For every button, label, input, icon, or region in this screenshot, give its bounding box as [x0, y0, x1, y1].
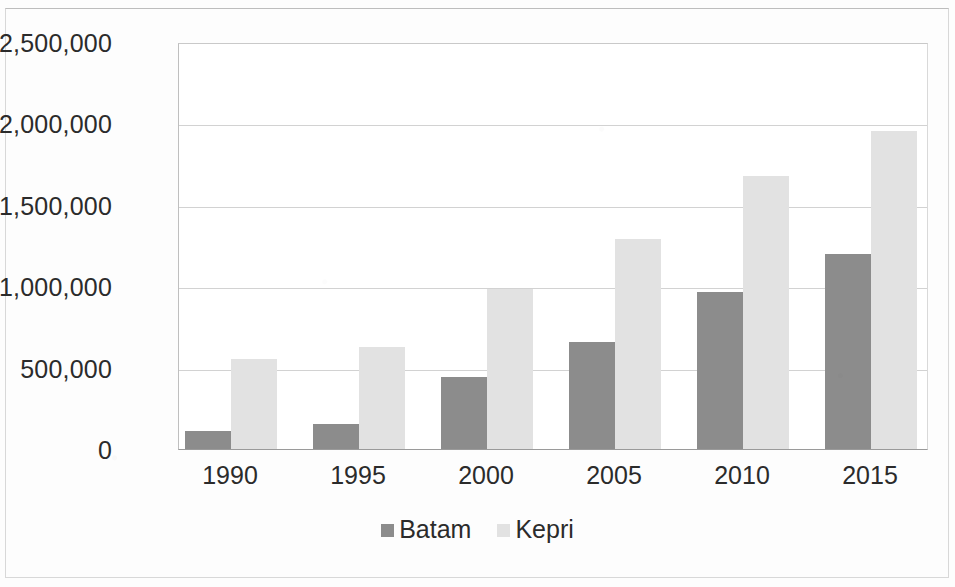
bar-kepri-1995[interactable] — [359, 347, 405, 449]
chart-legend: Batam Kepri — [0, 515, 955, 544]
grouped-bar-chart: 2,500,000 2,000,000 1,500,000 1,000,000 … — [0, 0, 955, 587]
bar-batam-1990[interactable] — [185, 431, 231, 449]
legend-item-label: Batam — [399, 515, 471, 544]
x-axis-tick-label: 1995 — [293, 461, 423, 490]
bar-kepri-2010[interactable] — [743, 176, 789, 450]
bar-kepri-2015[interactable] — [871, 131, 917, 449]
bar-kepri-2005[interactable] — [615, 239, 661, 449]
x-axis-tick-label: 1990 — [165, 461, 295, 490]
bar-batam-1995[interactable] — [313, 424, 359, 449]
x-axis-tick-label: 2010 — [677, 461, 807, 490]
legend-swatch-icon — [381, 524, 394, 537]
y-axis-tick-label: 1,500,000 — [0, 192, 112, 221]
bar-batam-2000[interactable] — [441, 377, 487, 449]
y-axis-tick-label: 0 — [0, 436, 112, 465]
legend-swatch-icon — [497, 524, 510, 537]
bar-batam-2010[interactable] — [697, 292, 743, 449]
bar-kepri-1990[interactable] — [231, 359, 277, 449]
legend-item-batam[interactable]: Batam — [381, 515, 471, 544]
bar-batam-2005[interactable] — [569, 342, 615, 449]
x-axis-tick-label: 2015 — [805, 461, 935, 490]
plot-area — [178, 43, 928, 450]
bar-kepri-2000[interactable] — [487, 289, 533, 449]
legend-item-kepri[interactable]: Kepri — [497, 515, 573, 544]
y-axis-tick-label: 500,000 — [0, 355, 112, 384]
y-axis-tick-label: 2,000,000 — [0, 110, 112, 139]
x-axis-tick-label: 2005 — [549, 461, 679, 490]
gridline — [179, 125, 927, 126]
chart-page: 2,500,000 2,000,000 1,500,000 1,000,000 … — [0, 0, 955, 587]
x-axis-tick-label: 2000 — [421, 461, 551, 490]
gridline — [179, 207, 927, 208]
y-axis-tick-label: 2,500,000 — [0, 29, 112, 58]
legend-item-label: Kepri — [515, 515, 573, 544]
gridline — [179, 288, 927, 289]
y-axis-tick-label: 1,000,000 — [0, 273, 112, 302]
gridline — [179, 370, 927, 371]
bar-batam-2015[interactable] — [825, 254, 871, 449]
